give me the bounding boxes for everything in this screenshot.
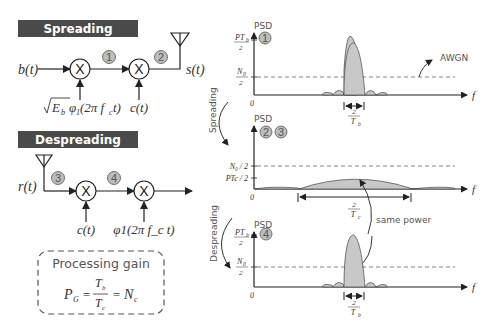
svg-text:PTc / 2: PTc / 2: [225, 174, 248, 183]
spread-spectrum-diagram: Spreading b(t) X 1 X 2 s(t): [0, 0, 494, 335]
despreading-transition-arrow: Despreading: [209, 205, 232, 268]
svg-text:2: 2: [352, 201, 356, 209]
svg-text:PT: PT: [234, 228, 245, 237]
spreading-section: Spreading b(t) X 1 X 2 s(t): [18, 20, 205, 117]
svg-text:T: T: [351, 210, 356, 219]
svg-text:b: b: [102, 284, 106, 292]
svg-text:N: N: [236, 257, 243, 266]
plot1-step-badge: 1: [259, 32, 271, 44]
wideband-spectrum: [255, 179, 455, 189]
svg-text:0: 0: [243, 261, 246, 267]
svg-text:T: T: [351, 117, 356, 126]
rx-antenna-icon: [36, 155, 52, 191]
svg-text:=: =: [82, 287, 91, 302]
svg-text:1: 1: [106, 51, 112, 63]
processing-gain-formula: P G = T b T c = N c: [63, 276, 138, 312]
step-4-badge: 4: [108, 172, 121, 185]
svg-text:Spreading: Spreading: [208, 87, 218, 133]
svg-text:2: 2: [352, 299, 356, 307]
svg-text:c: c: [102, 304, 106, 312]
mixer-4: X: [134, 181, 154, 201]
same-power-label: same power: [376, 215, 431, 225]
processing-gain-box: Processing gain P G = T b T c = N c: [38, 251, 164, 314]
svg-text:0: 0: [243, 71, 246, 77]
despreading-header-label: Despreading: [35, 133, 121, 147]
spreading-transition-arrow: Spreading: [208, 87, 228, 145]
spreading-code-label: c(t): [130, 100, 148, 115]
step-2-badge: 2: [155, 51, 168, 64]
svg-text:2: 2: [263, 126, 269, 138]
spreading-header-label: Spreading: [43, 22, 112, 36]
svg-text:2: 2: [352, 108, 356, 116]
despread-spectrum: [322, 235, 387, 287]
svg-text:4: 4: [263, 228, 269, 240]
svg-text:4: 4: [111, 172, 117, 184]
tx-antenna-icon: [171, 33, 189, 46]
mixer-1: X: [70, 59, 90, 79]
svg-text:PSD: PSD: [254, 114, 272, 124]
step-1-badge: 1: [103, 51, 116, 64]
svg-text:X: X: [75, 61, 85, 77]
svg-text:0: 0: [250, 99, 254, 108]
svg-text:(2π f: (2π f: [80, 100, 107, 115]
svg-text:b: b: [358, 121, 361, 127]
svg-text:f: f: [472, 183, 477, 195]
svg-text:E: E: [51, 100, 60, 115]
psd-plot-spread-input: PSD f 0 PT b 2 N 0 2 2 T b: [234, 21, 477, 127]
svg-text:f: f: [472, 281, 477, 293]
svg-text:2: 2: [158, 51, 164, 63]
svg-text:0: 0: [250, 291, 254, 300]
svg-text:b: b: [358, 312, 361, 318]
narrowband-spectrum: [322, 36, 387, 95]
psd-plot-despread-output: PSD f 0 PT b 2 N 0 2 2 T b 4: [234, 220, 477, 318]
svg-text:f: f: [472, 89, 477, 101]
despreading-section: Despreading r(t) 3 X 4 X c(t) φ1(2π f_c …: [18, 131, 192, 237]
despreading-carrier-label: φ1(2π f_c t): [113, 222, 174, 237]
svg-text:X: X: [139, 183, 149, 199]
svg-text:P: P: [63, 287, 73, 302]
svg-text:X: X: [134, 61, 144, 77]
svg-text:b: b: [61, 108, 65, 117]
svg-text:Despreading: Despreading: [209, 205, 219, 262]
svg-text:t): t): [113, 100, 121, 115]
svg-text:G: G: [73, 295, 79, 304]
svg-text:c: c: [134, 295, 138, 304]
svg-text:N: N: [123, 287, 134, 302]
plot2-step-badges: 2 3: [260, 126, 287, 138]
processing-gain-title: Processing gain: [52, 256, 150, 271]
carrier-label: E b φ 1 (2π f c t): [44, 98, 121, 117]
svg-text:2: 2: [239, 79, 243, 87]
svg-text:3: 3: [55, 172, 61, 184]
despreading-code-label: c(t): [77, 222, 95, 237]
svg-text:T: T: [351, 308, 356, 317]
svg-text:3: 3: [278, 126, 284, 138]
svg-text:PT: PT: [234, 33, 245, 42]
svg-text:1: 1: [262, 32, 268, 44]
mixer-2: X: [129, 59, 149, 79]
svg-text:2: 2: [239, 239, 243, 247]
plot3-step-badge: 4: [260, 228, 272, 240]
input-signal-label: b(t): [18, 62, 39, 78]
step-3-badge: 3: [52, 172, 65, 185]
output-signal-label: s(t): [186, 62, 205, 78]
svg-text:N₀ / 2: N₀ / 2: [229, 162, 248, 171]
svg-text:N: N: [236, 67, 243, 76]
svg-text:PSD: PSD: [254, 21, 272, 31]
svg-text:c: c: [358, 214, 361, 220]
svg-text:0: 0: [250, 193, 254, 202]
awgn-label: AWGN: [440, 53, 468, 63]
svg-text:X: X: [81, 183, 91, 199]
svg-text:2: 2: [239, 269, 243, 277]
svg-text:=: =: [112, 287, 121, 302]
svg-text:2: 2: [239, 44, 243, 52]
mixer-3: X: [76, 181, 96, 201]
received-signal-label: r(t): [18, 179, 37, 195]
